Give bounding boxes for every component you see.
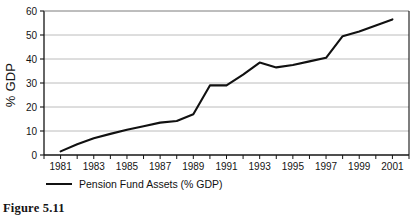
legend-line-marker-icon (46, 183, 72, 185)
x-tick-label: 1991 (215, 161, 238, 172)
x-tick-label: 1987 (149, 161, 172, 172)
y-tick-label: 30 (26, 78, 38, 89)
y-tick-label: 10 (26, 126, 38, 137)
y-axis-title: % GDP (3, 63, 18, 107)
y-tick-label: 60 (26, 6, 38, 17)
y-tick-label: 40 (26, 54, 38, 65)
x-tick-label: 1999 (348, 161, 371, 172)
y-tick-label: 0 (31, 150, 37, 161)
y-axis-title-group: % GDP (3, 63, 18, 107)
x-tick-label: 1981 (49, 161, 72, 172)
data-series-line (61, 19, 393, 151)
x-tick-label: 1995 (282, 161, 305, 172)
x-tick-label: 1985 (116, 161, 139, 172)
y-axis-tick-labels: 0102030405060 (26, 6, 38, 161)
x-tick-label: 1983 (83, 161, 106, 172)
horizontal-gridlines (44, 35, 409, 131)
line-chart-svg: % GDP 0102030405060 19811983198519871989… (0, 0, 417, 172)
x-tick-label: 1997 (315, 161, 338, 172)
figure-container: % GDP 0102030405060 19811983198519871989… (0, 0, 417, 220)
x-axis-tick-labels: 1981198319851987198919911993199519971999… (49, 161, 404, 172)
x-tick-label: 1989 (182, 161, 205, 172)
figure-caption: Figure 5.11 (3, 201, 65, 216)
x-tick-label: 1993 (249, 161, 272, 172)
x-tick-label: 2001 (381, 161, 404, 172)
y-tick-label: 50 (26, 30, 38, 41)
chart-legend: Pension Fund Assets (% GDP) (46, 176, 223, 192)
y-tick-label: 20 (26, 102, 38, 113)
chart-plot-area: % GDP 0102030405060 19811983198519871989… (0, 0, 417, 172)
legend-entry-label: Pension Fund Assets (% GDP) (79, 179, 223, 190)
